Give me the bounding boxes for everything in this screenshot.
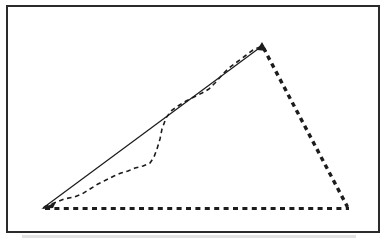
scan-shadow <box>22 235 356 238</box>
figure-canvas <box>0 0 388 241</box>
triangle-diagram-svg <box>0 0 388 241</box>
outer-frame <box>7 6 379 232</box>
